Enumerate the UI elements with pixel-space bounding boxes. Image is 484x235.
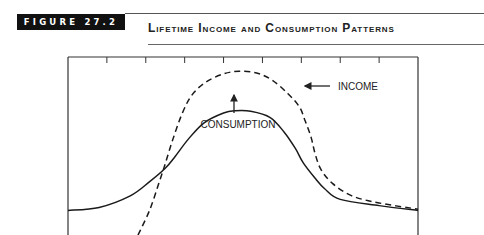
consumption-label: CONSUMPTION [201,119,276,130]
series-income-line [138,71,418,235]
series-group [68,71,418,235]
income-label: INCOME [338,81,378,92]
annotations: INCOME CONSUMPTION [201,81,379,130]
chart: INCOME CONSUMPTION [0,0,484,235]
x-ticks [107,57,379,63]
